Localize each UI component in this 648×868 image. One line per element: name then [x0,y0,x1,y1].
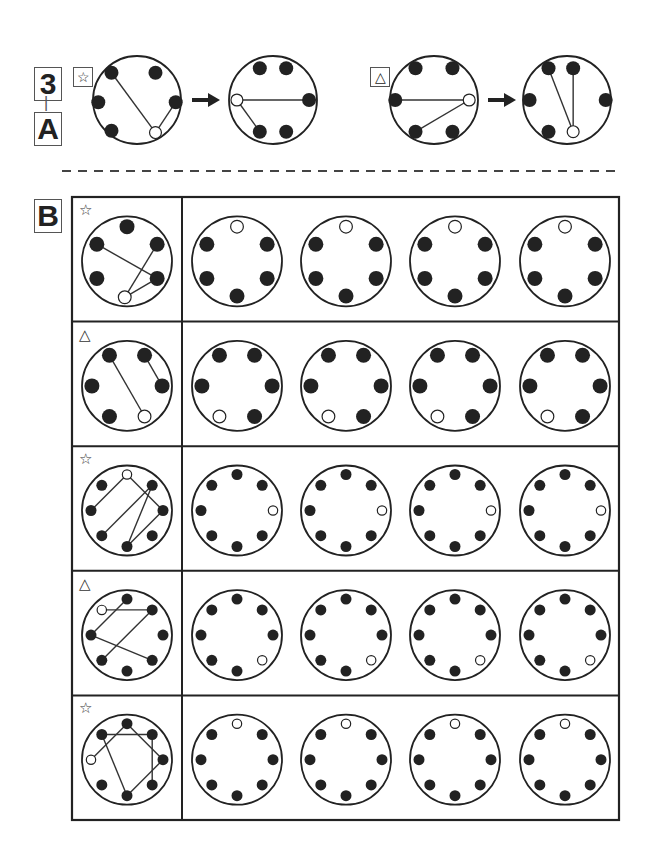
filled-dot [424,480,435,491]
row-4-example [82,590,172,680]
filled-dot [558,288,573,303]
filled-dot [257,779,268,790]
filled-dot [366,779,377,790]
filled-dot [450,666,461,677]
filled-dot [253,61,267,75]
filled-dot [315,530,326,541]
filled-dot [89,271,104,286]
filled-dot [86,630,97,641]
filled-dot [475,530,486,541]
filled-dot [206,779,217,790]
filled-dot [588,237,603,252]
filled-dot [542,61,556,75]
row-1-answer-1 [192,216,282,306]
filled-dot [412,378,427,393]
filled-dot [445,125,459,139]
filled-dot [196,630,207,641]
filled-dot [150,237,165,252]
filled-dot [206,655,217,666]
filled-dot [369,271,384,286]
row-4-answer-1 [192,590,282,680]
filled-dot [478,237,493,252]
filled-dot [585,779,596,790]
filled-dot [409,61,423,75]
filled-dot [585,530,596,541]
filled-dot [414,505,425,516]
filled-dot [104,66,118,80]
filled-dot [475,480,486,491]
filled-dot [257,480,268,491]
filled-dot [315,480,326,491]
filled-dot [575,409,590,424]
hollow-dot [367,656,376,665]
filled-dot [84,378,99,393]
filled-dot [96,530,107,541]
row-2-answer-3 [410,341,500,431]
filled-dot [450,541,461,552]
star-icon: ☆ [79,451,92,466]
filled-dot [465,348,480,363]
filled-dot [305,505,316,516]
hollow-dot [541,410,554,423]
row-3-example [82,466,172,556]
filled-dot [230,288,245,303]
filled-dot [377,630,388,641]
filled-dot [104,124,118,138]
filled-dot [305,630,316,641]
filled-dot [445,61,459,75]
row-4-answer-2 [301,590,391,680]
filled-dot [206,604,217,615]
filled-dot [523,93,537,107]
row-5-answer-2 [301,715,391,805]
filled-dot [122,594,133,605]
hollow-dot [231,94,243,106]
filled-dot [534,530,545,541]
filled-dot [524,754,535,765]
row-5-answer-1 [192,715,282,805]
hollow-dot [449,220,462,233]
hollow-dot [596,506,605,515]
hollow-dot [97,605,106,614]
filled-dot [417,237,432,252]
filled-dot [585,729,596,740]
puzzle-canvas [0,0,648,868]
filled-dot [305,754,316,765]
example-star-before [91,56,182,144]
row-3-answer-1 [192,466,282,556]
filled-dot [247,409,262,424]
filled-dot [96,655,107,666]
filled-dot [596,754,607,765]
filled-dot [196,754,207,765]
filled-dot [475,604,486,615]
filled-dot [315,655,326,666]
row-5-answer-3 [410,715,500,805]
filled-dot [566,61,580,75]
row-2-example [82,341,172,431]
filled-dot [257,729,268,740]
filled-dot [321,348,336,363]
filled-dot [356,409,371,424]
hollow-dot [450,719,459,728]
filled-dot [122,666,133,677]
star-icon: ☆ [79,202,92,217]
hollow-dot [559,220,572,233]
hollow-dot [476,656,485,665]
example-star-after [229,56,317,144]
filled-dot [155,378,170,393]
filled-dot [196,505,207,516]
filled-dot [341,790,352,801]
filled-dot [430,348,445,363]
filled-dot [308,237,323,252]
filled-dot [341,541,352,552]
filled-dot [206,480,217,491]
filled-dot [534,729,545,740]
filled-dot [341,469,352,480]
filled-dot [483,378,498,393]
filled-dot [341,594,352,605]
filled-dot [366,480,377,491]
filled-dot [465,409,480,424]
filled-dot [257,604,268,615]
filled-dot [424,779,435,790]
filled-dot [542,125,556,139]
filled-dot [366,530,377,541]
